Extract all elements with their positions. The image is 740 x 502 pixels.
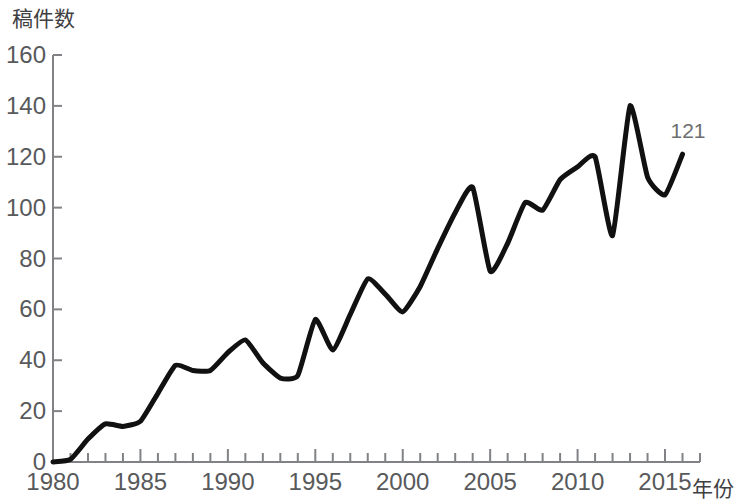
x-axis-ticks: [53, 449, 700, 462]
data-series-line: [53, 106, 683, 462]
y-axis-ticks: [53, 55, 62, 462]
plot-area: [0, 0, 740, 502]
manuscript-count-line-chart: 稿件数 年份 020406080100120140160 19801985199…: [0, 0, 740, 502]
axis-lines: [53, 55, 700, 462]
